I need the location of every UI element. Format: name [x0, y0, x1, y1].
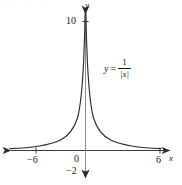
- y-tick-label-10: 10: [66, 16, 76, 26]
- fraction-numerator: 1: [121, 58, 128, 67]
- x-axis: [11, 148, 170, 154]
- x-tick-label-origin: 0: [74, 154, 79, 164]
- equation-annotation: y = 1 |x|: [104, 58, 131, 80]
- x-tick-label-neg6: −6: [27, 155, 38, 165]
- y-tick-label-neg2: −2: [66, 166, 77, 176]
- fraction-denominator: |x|: [119, 70, 130, 79]
- equation-lhs: y: [104, 64, 108, 74]
- graph-figure: · · ·· ·: [0, 0, 182, 185]
- equation-equals-sign: =: [110, 64, 116, 74]
- y-axis-label: y: [85, 1, 89, 10]
- equation-fraction: 1 |x|: [118, 58, 131, 80]
- y-axis: [83, 14, 89, 178]
- x-tick-label-6: 6: [156, 155, 161, 165]
- x-axis-label: x: [169, 154, 173, 163]
